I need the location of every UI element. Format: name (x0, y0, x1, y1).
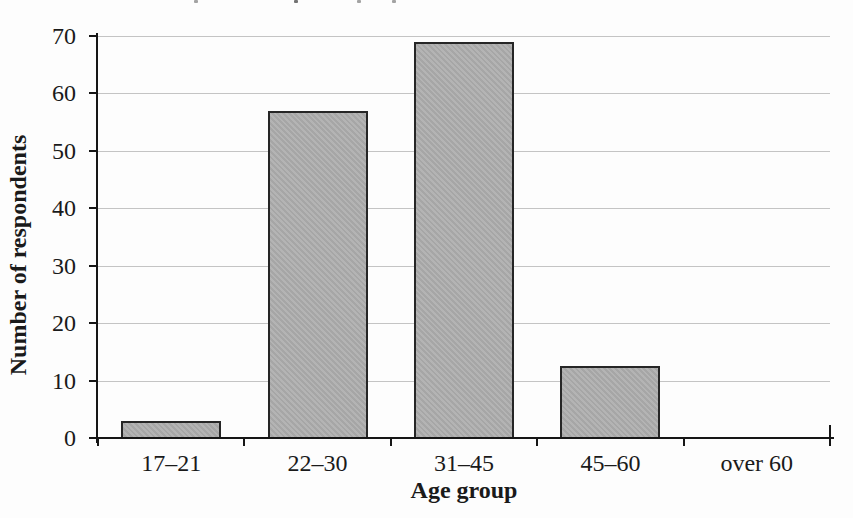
gridline-70 (98, 36, 830, 37)
scan-artifact (392, 0, 396, 3)
y-tick-label-70: 70 (0, 22, 88, 50)
x-tick-5 (829, 439, 831, 446)
scan-artifact (294, 0, 298, 3)
x-tick-label-31–45: 31–45 (391, 448, 537, 478)
scan-artifact (357, 0, 361, 3)
y-tick-70 (89, 35, 98, 37)
scan-artifact (194, 0, 198, 3)
plot-area (98, 36, 830, 438)
bar-chart-figure: 010203040506070 17–2122–3031–4545–60over… (0, 0, 853, 518)
bar-17–21 (121, 421, 221, 438)
y-tick-10 (89, 380, 98, 382)
y-tick-50 (89, 150, 98, 152)
x-tick-2 (390, 439, 392, 446)
x-axis-title: Age group (98, 475, 830, 505)
x-tick-0 (97, 439, 99, 446)
x-axis-end-stub (829, 425, 831, 438)
x-tick-label-22–30: 22–30 (245, 448, 391, 478)
y-axis-title: Number of respondents (3, 54, 33, 456)
y-tick-20 (89, 322, 98, 324)
x-tick-1 (243, 439, 245, 446)
bar-45–60 (560, 366, 660, 438)
y-tick-60 (89, 92, 98, 94)
bar-31–45 (414, 42, 514, 438)
y-tick-30 (89, 265, 98, 267)
x-axis-line (95, 437, 834, 439)
x-tick-4 (683, 439, 685, 446)
x-tick-label-17–21: 17–21 (98, 448, 244, 478)
bar-22–30 (268, 111, 368, 438)
x-tick-label-45–60: 45–60 (537, 448, 683, 478)
y-tick-40 (89, 207, 98, 209)
x-tick-3 (536, 439, 538, 446)
x-tick-label-over 60: over 60 (684, 448, 830, 478)
